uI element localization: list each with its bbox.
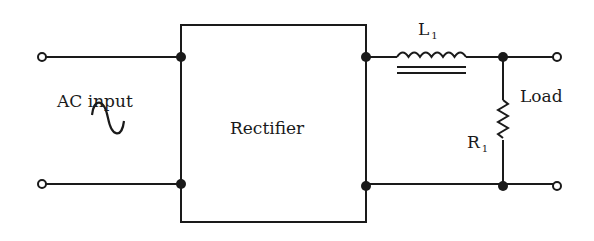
- terminal-input-top: [38, 53, 46, 61]
- junction-dot: [498, 52, 508, 62]
- resistor-label-sub: 1: [482, 143, 488, 154]
- rectifier-label: Rectifier: [230, 118, 304, 138]
- inductor-label: L1: [418, 19, 438, 39]
- resistor-label: R1: [467, 132, 488, 152]
- junction-dot: [361, 52, 371, 62]
- junction-dot: [176, 179, 186, 189]
- resistor-zigzag: [498, 100, 508, 138]
- terminal-output-bottom: [553, 182, 561, 190]
- junction-dot: [176, 52, 186, 62]
- terminal-output-top: [553, 53, 561, 61]
- inductor-label-sub: 1: [431, 30, 437, 41]
- load-label: Load: [520, 86, 563, 106]
- inductor-coil: [397, 53, 466, 58]
- ac-input-label: AC input: [57, 91, 133, 111]
- terminal-input-bottom: [38, 180, 46, 188]
- junction-dot: [498, 181, 508, 191]
- junction-dot: [361, 181, 371, 191]
- resistor-label-main: R: [467, 132, 480, 152]
- inductor-label-main: L: [418, 19, 429, 39]
